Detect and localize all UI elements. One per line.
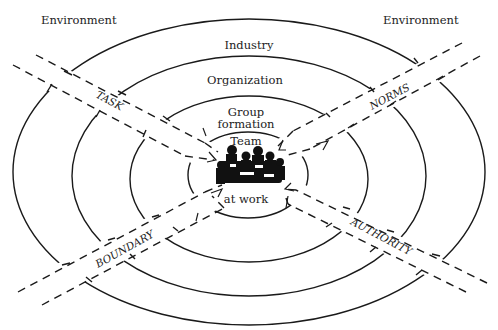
at-work-label: at work <box>224 192 269 206</box>
industry-label: Industry <box>224 38 274 52</box>
environment-label-left: Environment <box>41 13 117 27</box>
diagram-canvas: Environment Environment Industry Organiz… <box>0 0 498 330</box>
group-label-line2: formation <box>217 117 275 131</box>
environment-label-right: Environment <box>383 13 459 27</box>
team-label: Team <box>230 134 261 148</box>
team-meeting-illustration <box>216 145 285 184</box>
organization-label: Organization <box>207 73 283 87</box>
